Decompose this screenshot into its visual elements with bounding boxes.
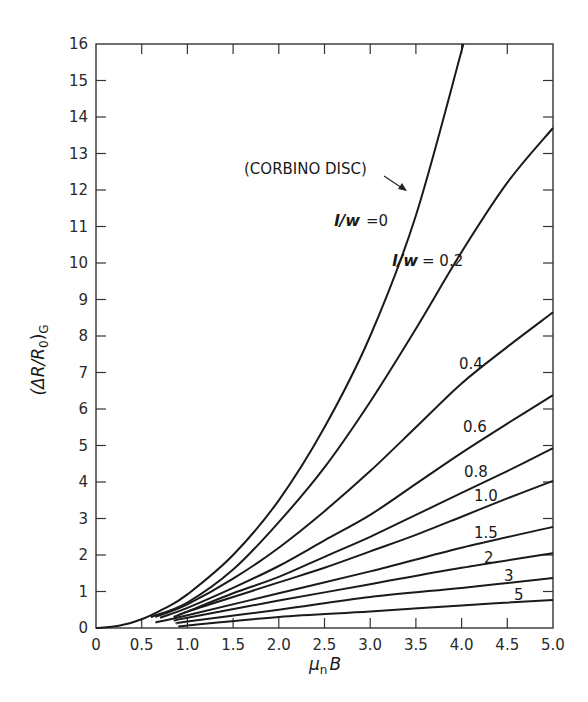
- label-curve-0-4: 0.4: [459, 355, 483, 373]
- y-axis-label: (ΔR/R0)G: [28, 324, 51, 395]
- x-tick-label: 1.0: [175, 636, 199, 654]
- y-tick-label: 0: [78, 619, 88, 637]
- x-tick-label: 4.5: [495, 636, 519, 654]
- x-tick-label: 0.5: [130, 636, 154, 654]
- label-lw-value-0: =0: [366, 212, 388, 230]
- corbino-disc-annotation: (CORBINO DISC): [244, 160, 367, 178]
- annotation-arrowhead-icon: [398, 183, 407, 191]
- ylabel-main: (ΔR/R: [28, 348, 48, 396]
- y-tick-label: 10: [69, 254, 88, 272]
- label-lw-prefix-0: l/w: [334, 211, 360, 230]
- x-tick-label: 0: [91, 636, 101, 654]
- x-tick-label: 3.5: [404, 636, 428, 654]
- y-tick-label: 14: [69, 108, 88, 126]
- x-tick-labels: 00.51.01.52.02.53.03.54.04.55.0: [91, 636, 565, 654]
- x-tick-label: 2.5: [313, 636, 337, 654]
- label-curve-1-0: 1.0: [474, 487, 498, 505]
- x-tick-label: 2.0: [267, 636, 291, 654]
- label-curve-0-8: 0.8: [464, 463, 488, 481]
- x-tick-label: 5.0: [541, 636, 565, 654]
- label-curve-3: 3: [504, 567, 514, 585]
- x-axis-label: μnB: [308, 654, 341, 677]
- y-tick-label: 7: [78, 364, 88, 382]
- y-tick-label: 12: [69, 181, 88, 199]
- curve-l-w-0: [96, 44, 463, 628]
- ylabel-close: ): [28, 334, 48, 341]
- y-tick-label: 15: [69, 72, 88, 90]
- ylabel-sub0: 0: [37, 340, 51, 348]
- y-tick-label: 9: [78, 291, 88, 309]
- y-tick-label: 16: [69, 35, 88, 53]
- label-curve-5: 5: [514, 586, 524, 604]
- label-curve-1-5: 1.5: [474, 524, 498, 542]
- xlabel-B: B: [329, 654, 341, 674]
- label-lw-prefix-02: l/w: [392, 251, 418, 270]
- y-tick-label: 1: [78, 583, 88, 601]
- label-curve-0-6: 0.6: [463, 418, 487, 436]
- label-curve-2: 2: [484, 549, 494, 567]
- y-tick-label: 11: [69, 218, 88, 236]
- curve-2: [174, 553, 553, 621]
- y-tick-label: 4: [78, 473, 88, 491]
- y-tick-label: 13: [69, 145, 88, 163]
- y-tick-label: 2: [78, 546, 88, 564]
- label-lw-value-02: = 0.2: [422, 252, 463, 270]
- xlabel-n: n: [320, 663, 328, 677]
- y-tick-label: 6: [78, 400, 88, 418]
- x-tick-label: 1.5: [221, 636, 245, 654]
- y-tick-labels: 012345678910111213141516: [69, 35, 88, 637]
- ylabel-subG: G: [37, 324, 51, 333]
- y-tick-label: 8: [78, 327, 88, 345]
- y-tick-label: 3: [78, 510, 88, 528]
- magnetoresistance-chart: 00.51.01.52.02.53.03.54.04.55.0 01234567…: [0, 0, 588, 702]
- curve-l-w-0-2: [151, 128, 553, 617]
- x-tick-label: 3.0: [358, 636, 382, 654]
- svg-text:(ΔR/R0)G: (ΔR/R0)G: [28, 324, 51, 395]
- y-tick-label: 5: [78, 437, 88, 455]
- x-tick-label: 4.0: [450, 636, 474, 654]
- xlabel-mu: μ: [308, 654, 320, 674]
